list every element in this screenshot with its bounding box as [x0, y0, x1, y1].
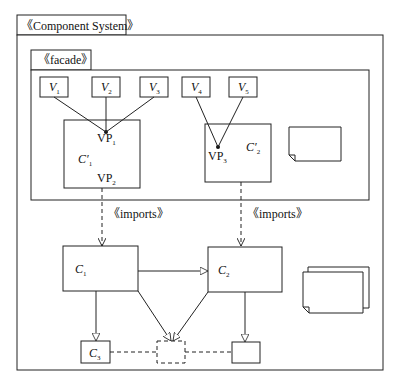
imports-label-1: 《imports》	[108, 207, 169, 221]
variant-v3: V3	[140, 77, 168, 97]
stacked-documents-icon	[303, 267, 369, 313]
package-component-system-label: 《Component System》	[21, 19, 139, 33]
variant-v4: V4	[182, 77, 210, 97]
component-box-right	[232, 342, 260, 363]
facade-component-c1: VP1 C′1 VP2	[64, 120, 140, 188]
package-facade-label: 《facade》	[38, 53, 93, 67]
variant-v2: V2	[92, 77, 120, 97]
variant-v5: V5	[229, 77, 257, 97]
facade-component-c2: VP3 C′2	[205, 124, 271, 182]
imports-label-2: 《imports》	[247, 207, 308, 221]
component-c2: C2	[208, 247, 282, 292]
component-system-diagram: 《Component System》 《facade》 V1 V2 V3 V4 …	[0, 0, 393, 389]
variant-v1: V1	[40, 77, 68, 97]
document-icon	[289, 127, 341, 161]
component-c3: C3	[81, 341, 110, 363]
component-c1: C1	[63, 246, 138, 291]
